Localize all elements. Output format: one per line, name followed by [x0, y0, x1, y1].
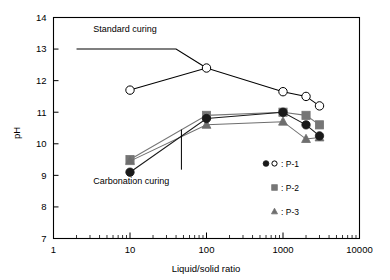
marker-filled-circle — [263, 161, 269, 167]
marker-open-circle — [272, 161, 277, 166]
annotation-standard-curing: Standard curing — [93, 24, 157, 34]
x-tick-label: 10 — [125, 244, 136, 255]
ph-vs-liquid-solid-ratio-chart: 7891011121314 110100100010000 pH Liquid/… — [0, 0, 390, 280]
legend-label: : P-3 — [281, 207, 299, 217]
x-tick-label: 10000 — [346, 244, 372, 255]
marker-filled-circle — [202, 114, 210, 122]
legend-label: : P-1 — [281, 159, 299, 169]
x-axis-title: Liquid/solid ratio — [172, 263, 241, 274]
y-tick-label: 12 — [36, 75, 47, 86]
x-tick-label: 1 — [51, 244, 56, 255]
marker-filled-circle — [315, 132, 323, 140]
marker-open-circle — [279, 87, 287, 95]
chart-figure: 7891011121314 110100100010000 pH Liquid/… — [0, 0, 390, 280]
marker-filled-square — [272, 185, 278, 191]
y-tick-label: 11 — [37, 107, 47, 118]
marker-open-circle — [302, 92, 310, 100]
y-tick-label: 9 — [41, 170, 46, 181]
y-tick-label: 10 — [36, 138, 47, 149]
marker-open-circle — [126, 86, 134, 94]
marker-filled-circle — [302, 121, 310, 129]
annotation-carbonation-curing: Carbonation curing — [93, 176, 169, 186]
y-tick-label: 8 — [41, 201, 46, 212]
marker-open-circle — [202, 64, 210, 72]
x-tick-label: 1000 — [272, 244, 293, 255]
y-tick-label: 14 — [36, 12, 47, 23]
marker-filled-circle — [279, 108, 287, 116]
x-tick-label: 100 — [199, 244, 215, 255]
y-axis-title: pH — [11, 127, 22, 139]
marker-filled-square — [315, 121, 323, 129]
marker-filled-circle — [126, 168, 134, 176]
marker-open-circle — [315, 102, 323, 110]
marker-filled-square — [302, 111, 310, 119]
y-tick-label: 7 — [41, 233, 46, 244]
y-tick-label: 13 — [36, 43, 47, 54]
legend-label: : P-2 — [281, 183, 299, 193]
